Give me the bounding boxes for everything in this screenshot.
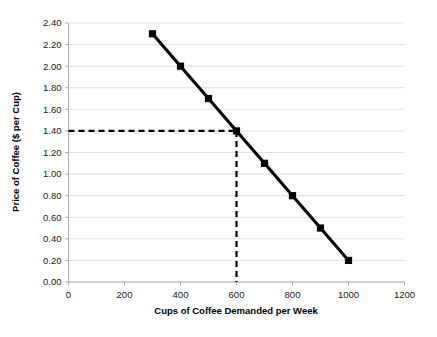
y-tick-label: 0.20 bbox=[43, 255, 62, 266]
y-tick-label: 1.40 bbox=[43, 125, 62, 136]
y-axis-tick-labels: 0.000.200.400.600.801.001.201.401.601.80… bbox=[43, 17, 62, 287]
data-point-marker bbox=[317, 224, 324, 231]
y-tick-label: 1.60 bbox=[43, 104, 62, 115]
data-point-marker bbox=[205, 95, 212, 102]
data-point-marker bbox=[289, 192, 296, 199]
y-axis-title: Price of Coffee ($ per Cup) bbox=[10, 92, 21, 212]
y-tick-label: 1.80 bbox=[43, 82, 62, 93]
x-tick-label: 400 bbox=[173, 289, 189, 300]
y-axis-tick-marks bbox=[65, 23, 69, 282]
data-point-marker bbox=[149, 30, 156, 37]
data-point-marker bbox=[177, 63, 184, 70]
x-axis-title: Cups of Coffee Demanded per Week bbox=[154, 305, 318, 316]
data-point-marker bbox=[261, 160, 268, 167]
y-tick-label: 1.00 bbox=[43, 168, 62, 179]
y-tick-label: 2.20 bbox=[43, 39, 62, 50]
y-tick-label: 1.20 bbox=[43, 147, 62, 158]
x-tick-label: 800 bbox=[285, 289, 301, 300]
x-tick-label: 1000 bbox=[338, 289, 359, 300]
y-tick-label: 2.40 bbox=[43, 17, 62, 28]
y-tick-label: 0.40 bbox=[43, 233, 62, 244]
x-tick-label: 0 bbox=[66, 289, 71, 300]
y-tick-label: 0.00 bbox=[43, 276, 62, 287]
x-tick-label: 200 bbox=[117, 289, 133, 300]
x-axis-tick-labels: 020040060080010001200 bbox=[66, 289, 415, 300]
chart-canvas: 0.000.200.400.600.801.001.201.401.601.80… bbox=[0, 0, 437, 337]
x-axis-tick-marks bbox=[69, 282, 405, 286]
x-tick-label: 600 bbox=[229, 289, 245, 300]
equilibrium-guide-lines bbox=[69, 131, 237, 282]
data-point-marker bbox=[345, 257, 352, 264]
demand-curve-chart: 0.000.200.400.600.801.001.201.401.601.80… bbox=[0, 0, 437, 337]
y-tick-label: 0.80 bbox=[43, 190, 62, 201]
y-tick-label: 2.00 bbox=[43, 61, 62, 72]
x-tick-label: 1200 bbox=[394, 289, 415, 300]
y-tick-label: 0.60 bbox=[43, 212, 62, 223]
data-point-marker bbox=[233, 127, 240, 134]
